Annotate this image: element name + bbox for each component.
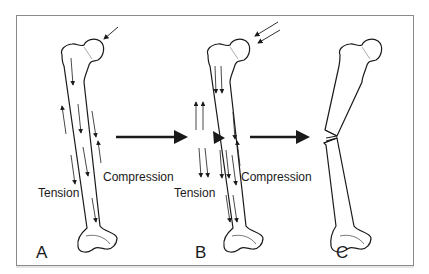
panel-c: C — [324, 39, 382, 262]
panel-label-c: C — [336, 243, 348, 262]
tension-label-b: Tension — [174, 186, 215, 200]
panel-label-b: B — [195, 243, 206, 262]
panel-a: Tension Compression A — [36, 27, 174, 262]
compression-label-a: Compression — [103, 170, 174, 184]
femur-b-outline — [207, 39, 263, 252]
transition-arrow-bc — [250, 130, 310, 144]
femur-diagram: Tension Compression A Tension Comp — [0, 0, 429, 274]
femur-a-outline — [61, 39, 117, 252]
femur-c-upper — [325, 39, 382, 136]
load-arrow-a — [104, 27, 118, 39]
panel-b: Tension Compression B — [174, 22, 312, 262]
transition-arrow-ab — [116, 130, 188, 144]
tension-label-a: Tension — [38, 186, 79, 200]
panel-label-a: A — [36, 243, 48, 262]
compression-label-b: Compression — [241, 170, 312, 184]
